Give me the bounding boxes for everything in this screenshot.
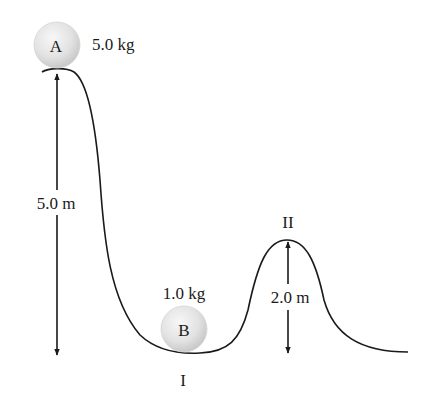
valley-point-label: I [180, 372, 186, 389]
ball-b-mass-label: 1.0 kg [163, 285, 206, 302]
hill-height-label: 2.0 m [271, 289, 310, 306]
track-curve [42, 69, 408, 354]
start-height-label: 5.0 m [37, 195, 76, 212]
ball-b-label: B [178, 322, 189, 339]
ball-a-label: A [50, 38, 62, 55]
hill-point-label: II [282, 214, 293, 231]
ball-a-mass-label: 5.0 kg [92, 36, 135, 53]
